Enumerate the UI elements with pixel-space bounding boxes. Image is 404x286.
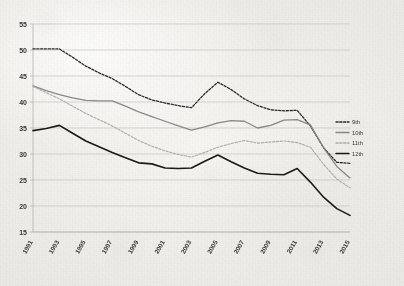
series-line-9th — [33, 49, 350, 163]
data-series-group — [33, 49, 350, 215]
x-tick-label: 1995 — [74, 239, 87, 255]
x-tick-label: 2005 — [206, 239, 219, 255]
gridlines-group — [33, 24, 350, 232]
y-tick-label: 30 — [19, 151, 27, 158]
legend-label-9th: 9th — [352, 119, 360, 125]
y-tick-label: 50 — [19, 47, 27, 54]
series-line-12th — [33, 125, 350, 215]
y-tick-label: 15 — [19, 229, 27, 236]
x-tick-label: 2015 — [338, 239, 351, 255]
y-axis-tick-labels: 152025303540455055 — [19, 21, 33, 236]
legend-label-11th: 11th — [352, 140, 363, 146]
x-tick-label: 2007 — [232, 239, 245, 255]
y-tick-label: 20 — [19, 203, 27, 210]
x-tick-label: 1999 — [126, 239, 139, 255]
x-tick-label: 1991 — [21, 239, 34, 255]
chart-canvas: 152025303540455055 199119931995199719992… — [0, 0, 404, 286]
x-tick-label: 1997 — [100, 239, 113, 255]
legend-label-10th: 10th — [352, 130, 363, 136]
chart-legend: 9th10th11th12th — [336, 119, 363, 157]
series-line-10th — [33, 86, 350, 178]
legend-label-12th: 12th — [352, 151, 363, 157]
x-tick-label: 2009 — [258, 239, 271, 255]
x-tick-label: 1993 — [47, 239, 60, 255]
y-tick-label: 45 — [19, 73, 27, 80]
y-tick-label: 25 — [19, 177, 27, 184]
x-tick-label: 2013 — [311, 239, 324, 255]
y-tick-label: 55 — [19, 21, 27, 28]
x-tick-label: 2011 — [285, 239, 298, 255]
x-tick-label: 2001 — [153, 239, 166, 255]
y-tick-label: 40 — [19, 99, 27, 106]
x-axis-tick-labels: 1991199319951997199920012003200520072009… — [21, 239, 351, 255]
x-tick-label: 2003 — [179, 239, 192, 255]
line-chart: 152025303540455055 199119931995199719992… — [0, 0, 404, 286]
y-tick-label: 35 — [19, 125, 27, 132]
